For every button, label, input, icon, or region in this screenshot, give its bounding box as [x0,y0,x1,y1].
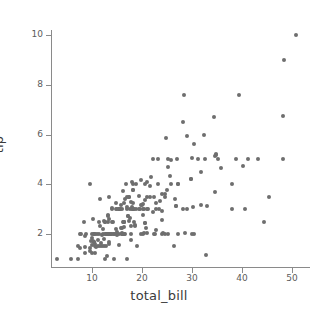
scatter-point [144,226,148,230]
scatter-point [190,156,194,160]
scatter-point [281,114,285,118]
scatter-point [158,199,162,203]
y-axis-label: tip [0,136,6,154]
scatter-point [139,178,143,182]
scatter-point [78,246,82,250]
scatter-point [230,182,234,186]
x-axis-label: total_bill [0,288,318,303]
scatter-point [175,157,179,161]
scatter-point [196,157,200,161]
scatter-point [230,207,234,211]
scatter-point [166,165,170,169]
scatter-point [168,174,172,178]
scatter-point [165,188,169,192]
scatter-point [185,207,189,211]
scatter-point [91,217,95,221]
scatter-point [164,136,168,140]
scatter-point [151,157,155,161]
x-axis-spine [51,267,310,268]
x-tick-label: 10 [86,274,97,283]
scatter-point [110,207,114,211]
scatter-point [262,220,266,224]
scatter-point [114,227,118,231]
scatter-point [69,257,73,261]
scatter-point [55,257,59,261]
scatter-point [103,257,107,261]
scatter-point [157,207,161,211]
scatter-point [107,242,111,246]
scatter-point [241,164,245,168]
scatter-point [101,227,105,231]
scatter-point [124,182,128,186]
scatter-point [185,134,189,138]
scatter-point [148,184,152,188]
scatter-point [163,195,167,199]
scatter-point [173,197,177,201]
y-tick-label: 8 [37,80,43,89]
scatter-point [139,232,143,236]
scatter-point [172,244,176,248]
scatter-point [234,157,238,161]
scatter-point [131,188,135,192]
scatter-point [154,228,158,232]
scatter-point [160,209,164,213]
scatter-point [143,182,147,186]
scatter-point [294,33,298,37]
data-points-layer [51,30,310,267]
scatter-point [131,201,135,205]
scatter-point [112,257,116,261]
scatter-point [154,201,158,205]
scatter-point [169,158,173,162]
scatter-point [205,204,209,208]
scatter-point [267,195,271,199]
scatter-point [141,213,145,217]
scatter-point [216,157,220,161]
y-tick-label: 4 [37,179,43,188]
scatter-plot-figure: 246810 1020304050 total_bill tip [0,0,318,312]
scatter-point [137,194,141,198]
scatter-point [83,245,87,249]
scatter-point [94,245,98,249]
scatter-point [174,204,178,208]
scatter-point [83,234,87,238]
scatter-point [122,225,126,229]
scatter-point [148,195,152,199]
x-tick-label: 30 [186,274,197,283]
scatter-point [213,154,217,158]
scatter-point [169,182,173,186]
scatter-point [105,232,109,236]
scatter-point [114,201,118,205]
scatter-point [97,232,101,236]
x-tick-label: 50 [286,274,297,283]
scatter-point [126,214,130,218]
scatter-point [88,182,92,186]
scatter-point [156,157,160,161]
scatter-point [246,157,250,161]
scatter-point [199,170,203,174]
scatter-point [143,221,147,225]
scatter-point [135,244,139,248]
scatter-point [212,115,216,119]
scatter-point [76,257,80,261]
scatter-point [83,251,87,255]
scatter-point [127,195,131,199]
scatter-point [256,157,260,161]
scatter-point [176,232,180,236]
scatter-point [203,157,207,161]
scatter-point [145,231,149,235]
scatter-point [123,232,127,236]
scatter-point [199,203,203,207]
scatter-point [134,182,138,186]
scatter-point [237,93,241,97]
scatter-point [110,220,114,224]
scatter-point [181,207,185,211]
scatter-point [182,93,186,97]
scatter-point [118,207,122,211]
scatter-point [181,120,185,124]
scatter-point [117,232,121,236]
x-tick-label: 40 [236,274,247,283]
scatter-point [102,237,106,241]
scatter-point [129,232,133,236]
scatter-point [151,210,155,214]
scatter-point [106,220,110,224]
